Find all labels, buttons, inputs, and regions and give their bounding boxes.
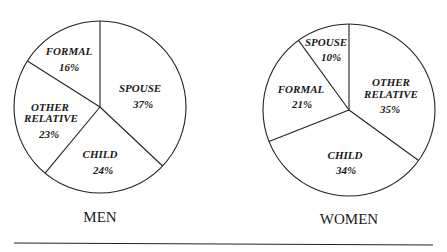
pie-charts-figure: FORMAL 16% SPOUSE 37% OTHER RELATIVE 23%… <box>0 0 447 252</box>
men-other-label-line2: RELATIVE <box>23 112 78 124</box>
women-child-label: CHILD <box>328 149 363 161</box>
women-divider-child-formal <box>269 110 349 142</box>
men-other-pct: 23% <box>38 128 59 140</box>
women-formal-pct: 21% <box>291 98 312 110</box>
women-formal-label: FORMAL <box>277 83 325 95</box>
women-spouse-pct: 10% <box>321 51 341 63</box>
women-other-label-line2: RELATIVE <box>363 88 418 100</box>
bottom-divider <box>14 243 433 245</box>
women-child-pct: 34% <box>335 164 356 176</box>
men-spouse-pct: 37% <box>132 98 153 110</box>
men-formal-label: FORMAL <box>45 45 93 57</box>
women-caption: WOMEN <box>320 211 378 227</box>
men-child-label: CHILD <box>83 148 118 160</box>
women-spouse-label: SPOUSE <box>305 36 347 48</box>
women-other-pct: 35% <box>379 103 400 115</box>
men-spouse-label: SPOUSE <box>119 82 161 94</box>
women-other-label-line1: OTHER <box>372 76 410 88</box>
men-formal-pct: 16% <box>59 61 79 73</box>
men-labels: FORMAL 16% SPOUSE 37% OTHER RELATIVE 23%… <box>23 45 161 176</box>
men-caption: MEN <box>83 209 117 225</box>
women-labels: SPOUSE 10% FORMAL 21% OTHER RELATIVE 35%… <box>277 36 418 176</box>
men-child-pct: 24% <box>92 164 113 176</box>
